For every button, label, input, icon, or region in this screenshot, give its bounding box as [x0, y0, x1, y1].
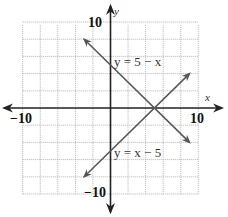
line-label-5-minus-x: y = 5 − x [114, 54, 162, 69]
x-min-tick-label: −10 [10, 111, 32, 126]
axes [4, 6, 222, 212]
y-axis-label: y [113, 5, 119, 17]
y-min-tick-label: −10 [84, 185, 106, 200]
y-max-tick-label: 10 [88, 15, 102, 30]
coordinate-plane-chart: 10 −10 −10 10 y x y = 5 − x y = x − 5 [0, 0, 228, 217]
x-max-tick-label: 10 [190, 111, 204, 126]
x-axis-label: x [204, 91, 210, 103]
line-label-x-minus-5: y = x − 5 [114, 145, 161, 160]
